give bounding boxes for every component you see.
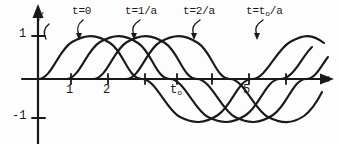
x-tick-label-5: 5 <box>243 84 250 96</box>
annotation-t0a-tail: /a <box>270 5 283 17</box>
y-tick-label-minus-1: -1 <box>12 110 26 122</box>
figure-canvas <box>0 0 339 144</box>
annotation-t-equals-1-over-a: t=1/a <box>125 6 157 17</box>
leader-curve-origin <box>44 24 49 39</box>
y-axis-title: y <box>38 8 43 20</box>
leader-curve-t0a <box>256 20 263 35</box>
leader-curve-t1a <box>133 20 140 35</box>
x-axis-title: x <box>324 72 329 84</box>
x-tick-label-1: 1 <box>66 84 73 96</box>
annotation-t-equals-t0-over-a: t=to/a <box>246 6 283 18</box>
x-tick-t0-subscript: o <box>177 88 182 97</box>
annotation-t0a-head: t=t <box>246 5 265 17</box>
annotation-t-equals-2-over-a: t=2/a <box>183 6 215 17</box>
x-tick-label-2: 2 <box>103 84 110 96</box>
y-tick-label-1: 1 <box>19 28 26 40</box>
wave-figure: t=0 t=1/a t=2/a t=to/a 1 2 to 5 1 -1 y x <box>0 0 339 144</box>
leader-curve-t2a <box>193 20 200 35</box>
annotation-t-equals-0: t=0 <box>72 6 91 17</box>
leader-curve-t0 <box>78 20 83 35</box>
leader-arrows <box>44 20 263 39</box>
x-tick-label-t0: to <box>170 84 182 97</box>
